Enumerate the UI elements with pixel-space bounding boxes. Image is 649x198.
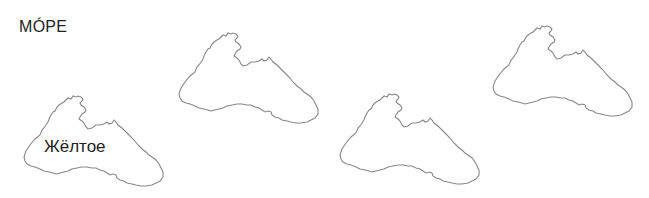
sea-outline-2 (175, 32, 321, 126)
sea-outline-3 (336, 93, 482, 187)
word-title: МÓРЕ (19, 18, 67, 36)
sea-outline-4 (489, 25, 635, 119)
sea-label: Жёлтое (44, 137, 106, 157)
